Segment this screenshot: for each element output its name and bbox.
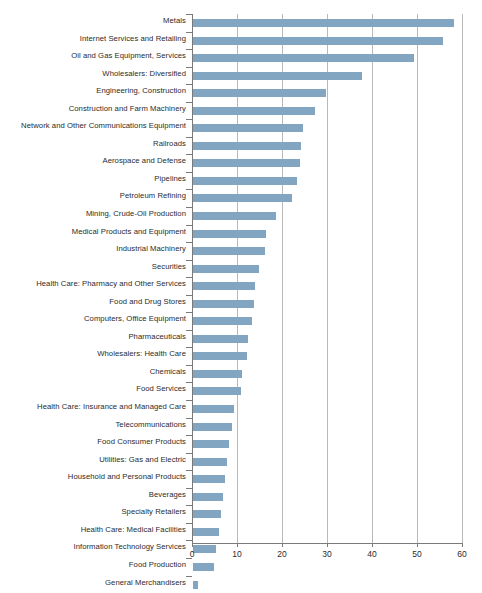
bar-row: Mining, Crude-Oil Production — [0, 207, 482, 225]
bar — [193, 405, 234, 413]
bar-row-list: MetalsInternet Services and RetailingOil… — [0, 14, 482, 593]
x-axis-tick-label: 50 — [412, 549, 421, 559]
bar — [193, 230, 266, 238]
bar — [193, 528, 219, 536]
bar — [193, 212, 276, 220]
bar-row: Metals — [0, 14, 482, 32]
bar-row: Railroads — [0, 137, 482, 155]
bar-category-label: Metals — [163, 15, 186, 26]
bar — [193, 282, 255, 290]
bar-row: Wholesalers: Diversified — [0, 67, 482, 85]
bar-row: Engineering, Construction — [0, 84, 482, 102]
bar-category-label: Pharmaceuticals — [128, 331, 186, 342]
y-axis-tick — [186, 32, 192, 33]
bar-row: Wholesalers: Health Care — [0, 347, 482, 365]
bar-row: Specialty Retailers — [0, 505, 482, 523]
x-axis-tick — [372, 543, 373, 547]
bar-category-label: Beverages — [149, 489, 186, 500]
bar-row: Food Services — [0, 382, 482, 400]
y-axis-tick — [186, 488, 192, 489]
bar-category-label: Food Services — [136, 383, 186, 394]
bar-category-label: Telecommunications — [115, 419, 186, 430]
y-axis-tick — [186, 312, 192, 313]
bar-category-label: Information Technology Services — [73, 541, 186, 552]
bar — [193, 370, 242, 378]
bar-row: Food Consumer Products — [0, 435, 482, 453]
bar-category-label: Food Production — [129, 559, 186, 570]
y-axis-tick — [186, 470, 192, 471]
bar-category-label: Household and Personal Products — [68, 471, 186, 482]
bar — [193, 107, 315, 115]
bar-category-label: Mining, Crude-Oil Production — [86, 208, 186, 219]
bar-row: Pharmaceuticals — [0, 330, 482, 348]
bar — [193, 335, 248, 343]
bar-row: Food and Drug Stores — [0, 295, 482, 313]
y-axis-tick — [186, 453, 192, 454]
y-axis-tick — [186, 172, 192, 173]
bar — [193, 563, 214, 571]
bar-category-label: Industrial Machinery — [116, 243, 186, 254]
bar — [193, 510, 221, 518]
y-axis-tick — [186, 523, 192, 524]
bar — [193, 440, 229, 448]
bar-row: Network and Other Communications Equipme… — [0, 119, 482, 137]
bar-row: Utilities: Gas and Electric — [0, 453, 482, 471]
bar-category-label: General Merchandisers — [105, 577, 186, 588]
y-axis-tick — [186, 137, 192, 138]
y-axis-tick — [186, 225, 192, 226]
y-axis-tick — [186, 330, 192, 331]
bar-category-label: Wholesalers: Diversified — [102, 68, 186, 79]
bar-row: Food Production — [0, 558, 482, 576]
bar — [193, 54, 414, 62]
y-axis-tick — [186, 154, 192, 155]
x-axis-tick-label: 60 — [457, 549, 466, 559]
y-axis-tick — [186, 435, 192, 436]
bar-category-label: Health Care: Pharmacy and Other Services — [36, 278, 186, 289]
bar — [193, 352, 247, 360]
bar-row: Health Care: Insurance and Managed Care — [0, 400, 482, 418]
x-axis-tick-label: 0 — [190, 549, 195, 559]
y-axis-tick — [186, 49, 192, 50]
bar-row: Health Care: Pharmacy and Other Services — [0, 277, 482, 295]
y-axis-tick — [186, 382, 192, 383]
bar-category-label: Medical Products and Equipment — [72, 226, 186, 237]
y-axis-tick — [186, 14, 192, 15]
bar — [193, 545, 216, 553]
bar — [193, 475, 225, 483]
bar-row: Medical Products and Equipment — [0, 225, 482, 243]
bar-category-label: Pipelines — [154, 173, 186, 184]
y-axis-tick — [186, 119, 192, 120]
y-axis-tick — [186, 540, 192, 541]
bar-category-label: Network and Other Communications Equipme… — [21, 120, 186, 131]
bar-category-label: Wholesalers: Health Care — [97, 348, 186, 359]
bar-category-label: Health Care: Insurance and Managed Care — [37, 401, 186, 412]
bar — [193, 37, 443, 45]
bar-row: Petroleum Refining — [0, 189, 482, 207]
bar-row: Oil and Gas Equipment, Services — [0, 49, 482, 67]
y-axis-tick — [186, 260, 192, 261]
bar — [193, 19, 454, 27]
bar-category-label: Oil and Gas Equipment, Services — [71, 50, 186, 61]
bar-category-label: Utilities: Gas and Electric — [99, 454, 186, 465]
bar-category-label: Computers, Office Equipment — [84, 313, 186, 324]
bar-row: Beverages — [0, 488, 482, 506]
x-axis-tick-label: 10 — [232, 549, 241, 559]
bar-row: Telecommunications — [0, 418, 482, 436]
bar-row: Health Care: Medical Facilities — [0, 523, 482, 541]
y-axis-tick — [186, 102, 192, 103]
bar-row: Securities — [0, 260, 482, 278]
y-axis-tick — [186, 347, 192, 348]
bar — [193, 493, 223, 501]
y-axis-tick — [186, 400, 192, 401]
bar-row: Pipelines — [0, 172, 482, 190]
bar-category-label: Construction and Farm Machinery — [69, 103, 186, 114]
x-axis-tick — [282, 543, 283, 547]
x-axis-tick-label: 30 — [322, 549, 331, 559]
y-axis-tick — [186, 242, 192, 243]
bar — [193, 265, 259, 273]
bar — [193, 317, 252, 325]
bar-row: Household and Personal Products — [0, 470, 482, 488]
y-axis-tick — [186, 365, 192, 366]
bar-category-label: Health Care: Medical Facilities — [81, 524, 186, 535]
bar-category-label: Internet Services and Retailing — [80, 33, 186, 44]
